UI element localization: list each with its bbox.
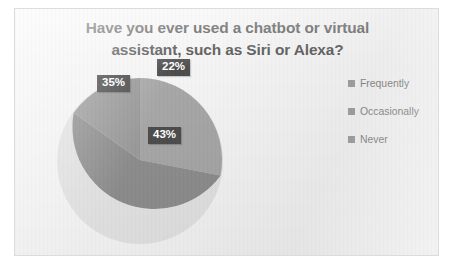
legend-swatch-icon	[348, 108, 355, 115]
chart-frame: Have you ever used a chatbot or virtual …	[0, 0, 453, 273]
legend-item-never[interactable]: Never	[348, 129, 439, 150]
legend-item-label: Frequently	[360, 78, 409, 89]
legend-item-occasionally[interactable]: Occasionally	[348, 101, 439, 122]
chart-card: Have you ever used a chatbot or virtual …	[14, 8, 439, 256]
legend-item-label: Never	[360, 134, 388, 145]
data-label-frequently: 22%	[157, 59, 190, 76]
chart-legend: Frequently Occasionally Never	[348, 73, 439, 157]
legend-item-frequently[interactable]: Frequently	[348, 73, 439, 94]
data-label-never: 35%	[97, 75, 130, 92]
pie-chart-svg	[55, 75, 225, 245]
data-label-occasionally: 43%	[148, 127, 181, 144]
legend-swatch-icon	[348, 80, 355, 87]
legend-item-label: Occasionally	[360, 106, 419, 117]
legend-swatch-icon	[348, 136, 355, 143]
